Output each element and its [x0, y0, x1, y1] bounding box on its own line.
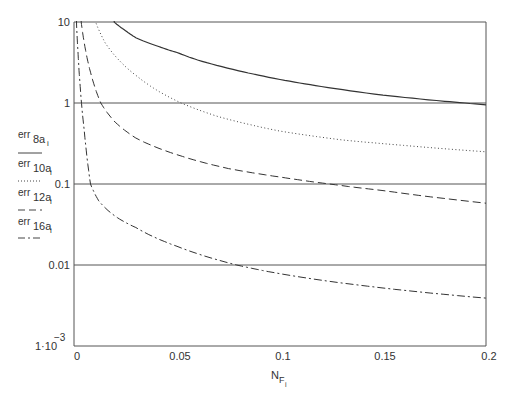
legend-label-subsub: i — [47, 139, 49, 148]
legend-label-main: err — [18, 158, 31, 169]
legend-label-subsub: i — [50, 168, 52, 177]
legend-label-main: err — [18, 216, 31, 227]
legend: err 8a i err 10a i err 12a i err 16a i — [18, 129, 52, 238]
curve-err10 — [96, 20, 486, 152]
y-tick-0.01: 0.01 — [49, 259, 70, 271]
legend-label-main: err — [18, 187, 31, 198]
curve-err16 — [77, 20, 487, 298]
legend-label-subsub: i — [50, 197, 52, 206]
legend-item-err16: err 16a i — [18, 216, 52, 238]
curve-err12 — [81, 20, 486, 203]
y-tick-0.001-exponent: −3 — [54, 332, 66, 343]
gridlines — [74, 22, 486, 265]
chart: 10 1 0.1 0.01 1·10 −3 0 0.05 0.1 0.15 0.… — [0, 0, 512, 396]
legend-item-err10: err 10a i — [18, 158, 52, 181]
x-label-subsub: i — [285, 381, 287, 388]
legend-label-subsub: i — [50, 226, 52, 235]
x-tick-0.2: 0.2 — [481, 350, 496, 362]
x-tick-0.05: 0.05 — [169, 350, 190, 362]
legend-item-err12: err 12a i — [18, 187, 52, 210]
series-group — [77, 20, 487, 298]
legend-item-err8: err 8a i — [18, 129, 49, 153]
x-tick-0.1: 0.1 — [275, 350, 290, 362]
y-tick-10: 10 — [58, 16, 70, 28]
y-tick-1: 1 — [64, 97, 70, 109]
y-tick-0.1: 0.1 — [55, 178, 70, 190]
y-tick-labels: 10 1 0.1 0.01 — [49, 16, 70, 271]
x-tick-labels: 0 0.05 0.1 0.15 0.2 — [74, 350, 497, 362]
x-label-main: N — [271, 369, 279, 381]
x-tick-0: 0 — [74, 350, 80, 362]
x-tick-0.15: 0.15 — [374, 350, 395, 362]
curve-err8 — [114, 20, 486, 105]
legend-label-sub: 8a — [33, 133, 46, 145]
legend-label-main: err — [18, 129, 31, 140]
x-axis-label: N F i — [271, 369, 287, 388]
